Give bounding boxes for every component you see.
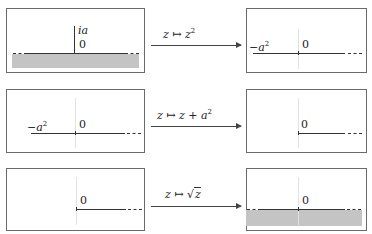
lower-half-plane-shading (12, 54, 139, 68)
label-origin: 0 (80, 195, 87, 206)
real-axis (261, 209, 345, 210)
origin-tick (75, 131, 76, 135)
origin-tick (298, 131, 299, 135)
label-ia: ia (78, 25, 88, 36)
map-arrow-row1 (151, 45, 241, 46)
panel-row3-right: 0 (246, 168, 367, 231)
branch-cut-ray (76, 209, 126, 210)
dashed-axis-right (128, 209, 142, 211)
label-origin: 0 (302, 39, 309, 50)
imaginary-slit (74, 26, 75, 54)
panel-row2-left: −a2 0 (6, 89, 145, 153)
map-label-translate: z ↦ z + a2 (157, 109, 212, 121)
panel-row3-left: 0 (6, 168, 145, 231)
real-axis (27, 53, 125, 54)
imag-axis-guide (298, 98, 299, 148)
panel-row1-right: −a2 0 (246, 8, 367, 73)
label-origin: 0 (79, 119, 86, 130)
dashed-axis-left (247, 209, 261, 211)
imag-axis-guide (298, 29, 299, 69)
label-origin: 0 (301, 119, 308, 130)
dashed-axis-right (125, 53, 139, 55)
map-label-sqrt: z ↦ √z (165, 189, 201, 200)
dashed-axis-right (348, 53, 362, 55)
label-minus-a-squared: −a2 (249, 41, 269, 53)
panel-row2-right: 0 (246, 89, 367, 153)
label-origin: 0 (79, 39, 86, 50)
dashed-axis-right (347, 209, 361, 211)
origin-tick (298, 207, 299, 211)
dashed-axis-left (13, 53, 27, 55)
dashed-axis-right (348, 133, 362, 135)
panel-row1-left: ia 0 (6, 8, 145, 73)
branch-cut-ray (298, 133, 345, 134)
map-arrow-row3 (151, 206, 241, 207)
label-origin: 0 (302, 195, 309, 206)
dashed-axis-right (127, 133, 141, 135)
imag-axis-guide (75, 98, 76, 148)
origin-tick (298, 51, 299, 55)
real-axis (253, 53, 345, 54)
map-label-z-squared: z ↦ z2 (163, 28, 195, 40)
real-axis (31, 133, 125, 134)
map-arrow-row2 (151, 126, 241, 127)
imag-axis-guide (298, 177, 299, 225)
lower-half-plane-shading (246, 210, 362, 226)
origin-tick (76, 207, 77, 211)
imag-axis-guide (76, 177, 77, 225)
label-minus-a-squared: −a2 (27, 121, 47, 133)
